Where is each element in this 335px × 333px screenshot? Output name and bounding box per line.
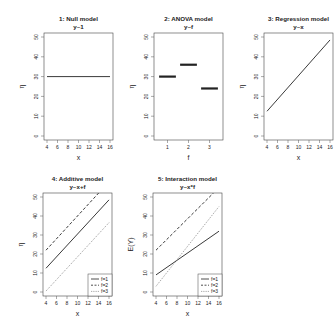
y-tick-label: 0 [142,290,148,293]
y-tick-label: 40 [253,54,259,60]
y-axis-label: η [18,84,26,88]
x-tick-label: 4 [155,300,158,306]
series-line-f2 [156,188,219,251]
panel-subtitle: y~f [184,23,194,30]
panel-title: 4: Additive model [52,175,104,182]
legend-label: f=1 [211,276,218,282]
panel-5: 5: Interaction modely~x*f010203040504681… [127,175,222,317]
series-line-fit [267,40,330,111]
x-tick-label: 16 [107,144,113,150]
panel-title: 5: Interaction model [158,175,217,182]
x-tick-label: 14 [97,144,103,150]
x-tick-label: 1 [166,144,169,150]
y-axis-label: η [128,84,136,88]
x-tick-label: 8 [66,300,69,306]
y-tick-label: 30 [143,74,149,80]
series-line-f1 [156,231,219,275]
panel-title: 3: Regression model [268,15,329,22]
y-tick-label: 20 [142,251,148,257]
panel-subtitle: y~x*f [180,183,196,190]
y-tick-label: 0 [253,134,259,137]
y-tick-label: 10 [32,270,38,276]
y-tick-label: 20 [253,93,259,99]
series-group [267,40,330,111]
x-tick-label: 14 [96,300,102,306]
x-tick-label: 16 [106,300,112,306]
y-tick-label: 30 [33,74,39,80]
panel-1: 1: Null modely~10102030405046810121416xη [18,15,113,161]
plot-frame [154,33,223,140]
y-tick-label: 40 [143,54,149,60]
y-tick-label: 20 [143,93,149,99]
x-tick-label: 10 [296,144,302,150]
x-tick-label: 12 [85,300,91,306]
y-axis-label: η [17,242,25,246]
x-tick-label: 14 [206,300,212,306]
x-tick-label: 8 [176,300,179,306]
panel-2: 2: ANOVA modely~f01020304050123fη [128,15,223,161]
y-axis-label: E(Y) [127,238,135,252]
legend-label: f=3 [101,288,108,294]
legend: f=1f=2f=3 [198,274,222,296]
panel-subtitle: y~x+f [69,183,86,190]
y-axis-label: η [238,84,246,88]
panel-subtitle: y~x [293,23,304,30]
y-tick-label: 30 [32,232,38,238]
y-tick-label: 0 [143,134,149,137]
x-tick-label: 10 [76,144,82,150]
y-tick-label: 50 [32,194,38,200]
panel-title: 2: ANOVA model [164,15,213,22]
x-axis-label: x [77,154,81,161]
y-tick-label: 50 [142,194,148,200]
y-tick-label: 10 [33,113,39,119]
legend-label: f=2 [211,282,218,288]
x-tick-label: 16 [216,300,222,306]
panel-title: 1: Null model [59,15,98,22]
y-tick-label: 50 [143,34,149,40]
y-tick-label: 10 [143,113,149,119]
legend-label: f=1 [101,276,108,282]
x-tick-label: 10 [75,300,81,306]
y-tick-label: 30 [253,74,259,80]
y-tick-label: 40 [33,54,39,60]
series-group [156,188,219,287]
figure-grid: 1: Null modely~10102030405046810121416xη… [0,0,335,333]
x-axis-label: x [76,310,80,317]
x-tick-label: 6 [165,300,168,306]
y-tick-label: 20 [33,93,39,99]
y-tick-label: 40 [32,213,38,219]
x-tick-label: 14 [317,144,323,150]
x-tick-label: 10 [185,300,191,306]
legend: f=1f=2f=3 [88,274,112,296]
x-tick-label: 2 [187,144,190,150]
x-tick-label: 12 [86,144,92,150]
y-tick-label: 10 [253,113,259,119]
x-axis-label: f [188,154,190,161]
x-tick-label: 3 [208,144,211,150]
x-tick-label: 16 [327,144,333,150]
x-axis-label: x [186,310,190,317]
x-tick-label: 8 [67,144,70,150]
y-tick-label: 10 [142,270,148,276]
y-tick-label: 40 [142,213,148,219]
series-group [159,65,218,89]
series-line-f2 [46,182,109,250]
panel-3: 3: Regression modely~x010203040504681012… [238,15,333,161]
x-tick-label: 12 [195,300,201,306]
y-tick-label: 50 [33,34,39,40]
plots-canvas: 1: Null modely~10102030405046810121416xη… [0,0,335,333]
y-tick-label: 30 [142,232,148,238]
y-tick-label: 0 [33,134,39,137]
x-tick-label: 4 [46,144,49,150]
panel-4: 4: Additive modely~x+f010203040504681012… [17,175,112,317]
y-tick-label: 50 [253,34,259,40]
plot-frame [264,33,333,140]
x-tick-label: 8 [287,144,290,150]
y-tick-label: 20 [32,251,38,257]
x-axis-label: x [297,154,301,161]
legend-label: f=2 [101,282,108,288]
plot-frame [44,33,113,140]
x-tick-label: 4 [45,300,48,306]
legend-label: f=3 [211,288,218,294]
x-tick-label: 4 [266,144,269,150]
